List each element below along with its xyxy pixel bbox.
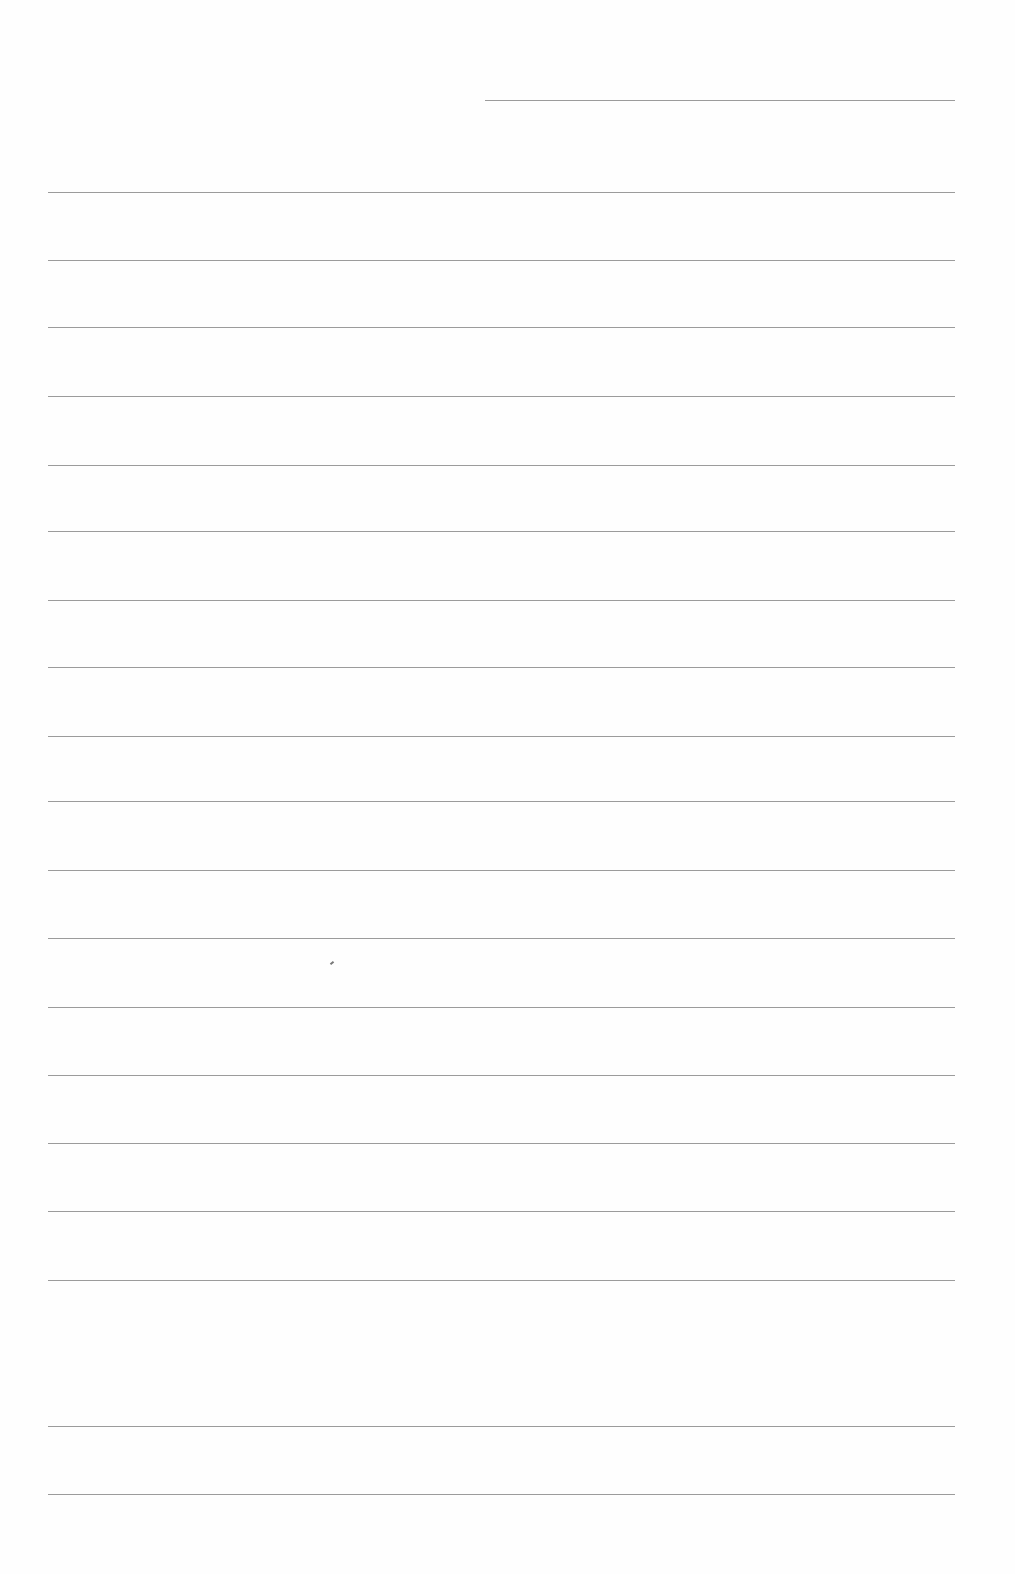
ruled-line: [48, 801, 955, 802]
pencil-mark: [330, 961, 334, 965]
ruled-line: [48, 938, 955, 939]
ruled-line: [48, 1211, 955, 1212]
ruled-line: [48, 465, 955, 466]
ruled-line: [48, 667, 955, 668]
ruled-line: [48, 736, 955, 737]
ruled-line: [48, 260, 955, 261]
header-rule: [485, 100, 955, 101]
ruled-line: [48, 1426, 955, 1427]
ruled-line: [48, 192, 955, 193]
lined-page: [0, 0, 1015, 1574]
ruled-line: [48, 396, 955, 397]
ruled-line: [48, 1143, 955, 1144]
ruled-line: [48, 1494, 955, 1495]
ruled-line: [48, 600, 955, 601]
ruled-line: [48, 327, 955, 328]
ruled-line: [48, 870, 955, 871]
ruled-line: [48, 1280, 955, 1281]
ruled-line: [48, 1075, 955, 1076]
ruled-line: [48, 1007, 955, 1008]
ruled-line: [48, 531, 955, 532]
